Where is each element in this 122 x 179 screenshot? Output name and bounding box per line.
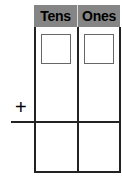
right-border xyxy=(119,27,121,173)
left-border xyxy=(34,27,36,173)
tens-column-header: Tens xyxy=(34,5,77,27)
bottom-border xyxy=(34,171,121,173)
plus-sign: + xyxy=(15,97,27,117)
ones-column-header: Ones xyxy=(78,5,120,27)
sum-line xyxy=(11,121,121,123)
tens-digit-box[interactable] xyxy=(41,34,71,64)
ones-digit-box[interactable] xyxy=(84,34,114,64)
column-divider xyxy=(77,27,79,173)
